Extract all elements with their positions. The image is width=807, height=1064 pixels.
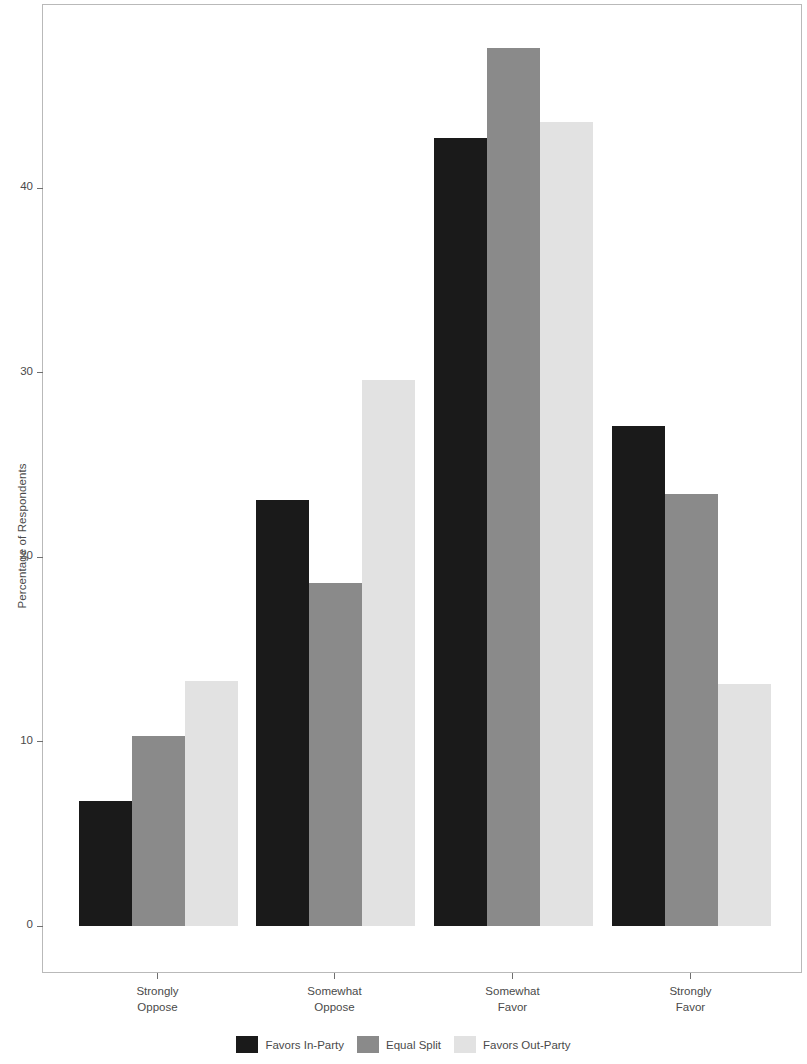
legend-swatch: [236, 1036, 258, 1053]
x-tick-label-line: Favor: [611, 999, 771, 1015]
x-tick-mark: [512, 973, 513, 979]
y-tick-label: 30: [1, 365, 33, 377]
y-axis-title: Percentage of Respondents: [16, 426, 28, 646]
x-tick-mark: [690, 973, 691, 979]
legend-swatch: [454, 1036, 476, 1053]
bar[interactable]: [132, 736, 185, 926]
bar[interactable]: [540, 122, 593, 926]
bar-chart-figure: Percentage of Respondents 010203040 Stro…: [0, 0, 807, 1064]
legend-entry[interactable]: Equal Split: [357, 1036, 441, 1053]
bar[interactable]: [612, 426, 665, 926]
x-tick-label-line: Somewhat: [255, 983, 415, 999]
legend-entry[interactable]: Favors Out-Party: [454, 1036, 571, 1053]
bar-group: [612, 5, 771, 926]
y-tick-label: 0: [1, 918, 33, 930]
legend-swatch: [357, 1036, 379, 1053]
x-tick-label-line: Oppose: [78, 999, 238, 1015]
bar[interactable]: [185, 681, 238, 926]
bar-group: [434, 5, 593, 926]
legend-label: Favors In-Party: [265, 1039, 344, 1051]
bar-group: [256, 5, 415, 926]
legend-label: Equal Split: [386, 1039, 441, 1051]
x-tick-label-line: Strongly: [78, 983, 238, 999]
x-tick-label-line: Favor: [433, 999, 593, 1015]
x-tick-label: StronglyOppose: [78, 983, 238, 1015]
x-tick-label: StronglyFavor: [611, 983, 771, 1015]
x-tick-mark: [334, 973, 335, 979]
bar[interactable]: [362, 380, 415, 926]
x-tick-label-line: Strongly: [611, 983, 771, 999]
bar[interactable]: [718, 684, 771, 926]
bar-groups: [43, 5, 803, 974]
bar[interactable]: [309, 583, 362, 926]
legend-label: Favors Out-Party: [483, 1039, 571, 1051]
chart-legend: Favors In-PartyEqual SplitFavors Out-Par…: [0, 1036, 807, 1053]
x-tick-mark: [157, 973, 158, 979]
y-tick-label: 20: [1, 549, 33, 561]
bar[interactable]: [665, 494, 718, 926]
legend-entry[interactable]: Favors In-Party: [236, 1036, 344, 1053]
x-tick-label-line: Oppose: [255, 999, 415, 1015]
x-tick-label-line: Somewhat: [433, 983, 593, 999]
bar[interactable]: [256, 500, 309, 926]
y-tick-label: 10: [1, 734, 33, 746]
bar[interactable]: [487, 48, 540, 926]
bar-group: [79, 5, 238, 926]
y-tick-label: 40: [1, 180, 33, 192]
bar[interactable]: [434, 138, 487, 926]
plot-area: 010203040: [42, 4, 802, 973]
x-tick-label: SomewhatOppose: [255, 983, 415, 1015]
x-tick-label: SomewhatFavor: [433, 983, 593, 1015]
bar[interactable]: [79, 801, 132, 926]
